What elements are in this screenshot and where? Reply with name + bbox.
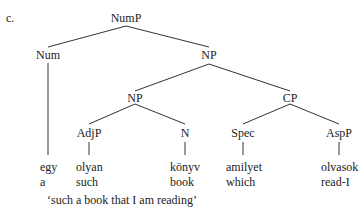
node-adjp: AdjP xyxy=(77,127,102,140)
word-english: such xyxy=(76,175,103,190)
word-hungarian: olyan xyxy=(76,160,103,175)
word-egy: egy a xyxy=(40,160,57,190)
node-np-top: NP xyxy=(201,49,216,62)
node-aspp: AspP xyxy=(326,127,352,140)
word-hungarian: amilyet xyxy=(226,160,262,175)
node-nump: NumP xyxy=(111,12,142,25)
node-cp: CP xyxy=(283,92,298,105)
word-hungarian: olvasok xyxy=(321,160,358,175)
word-english: read-I xyxy=(321,175,358,190)
word-english: book xyxy=(170,175,200,190)
word-english: a xyxy=(40,175,57,190)
word-amilyet: amilyet which xyxy=(226,160,262,190)
node-n: N xyxy=(181,127,190,140)
node-num: Num xyxy=(36,49,60,62)
translation: ‘such a book that I am reading’ xyxy=(47,193,197,208)
node-np-mid: NP xyxy=(127,92,142,105)
node-spec: Spec xyxy=(231,127,254,140)
word-olyan: olyan such xyxy=(76,160,103,190)
word-english: which xyxy=(226,175,262,190)
word-hungarian: könyv xyxy=(170,160,200,175)
word-hungarian: egy xyxy=(40,160,57,175)
example-label: c. xyxy=(6,11,14,26)
word-konyv: könyv book xyxy=(170,160,200,190)
word-olvasok: olvasok read-I xyxy=(321,160,358,190)
